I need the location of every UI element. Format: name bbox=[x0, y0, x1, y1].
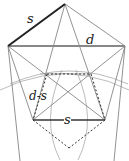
label-d-minus-s: d-s bbox=[29, 90, 47, 102]
label-s-bottom: s bbox=[64, 113, 71, 126]
side-s bbox=[8, 4, 65, 46]
diagram: s d d-s s bbox=[0, 0, 129, 161]
pentagon-diagram bbox=[0, 0, 129, 161]
label-s-top: s bbox=[27, 12, 34, 25]
label-d: d bbox=[86, 33, 94, 46]
construction-lines bbox=[8, 4, 125, 161]
